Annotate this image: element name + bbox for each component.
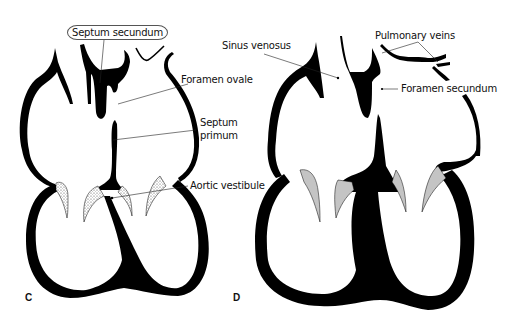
- label-aortic-vestibule: Aortic vestibule: [190, 180, 265, 191]
- panel-d-right-atrial-wall: [436, 94, 481, 172]
- panel-d-pulmonary-vein-lower: [432, 66, 450, 81]
- panel-letter-c: C: [25, 292, 32, 303]
- panel-d-septum-primum: [336, 114, 400, 192]
- panel-c-sinus-notch: [136, 46, 164, 60]
- panel-c-leader-septum-primum: [113, 130, 196, 140]
- panel-d-heart: [255, 36, 480, 310]
- label-septum-primum-line2: primum: [200, 130, 238, 141]
- panel-d-valve-right-outer: [422, 166, 446, 212]
- panel-d-sinus-venosus-dot: [337, 77, 339, 79]
- panel-c-valve-left-outer: [56, 182, 68, 218]
- panel-c-left-atrial-wall: [20, 48, 73, 188]
- panel-d-left-atrial-wall: [267, 42, 324, 178]
- label-septum-secundum: Septum secundum: [67, 25, 168, 40]
- label-foramen-secundum: Foramen secundum: [401, 83, 497, 94]
- panel-c-valve-right-inner: [118, 186, 132, 216]
- panel-c-septum-primum: [96, 120, 124, 190]
- panel-letter-d: D: [233, 292, 240, 303]
- label-septum-primum-line1: Septum: [200, 117, 238, 128]
- panel-c-right-atrial-wall: [164, 52, 199, 182]
- panel-d-pulmonary-vein-upper: [380, 44, 446, 62]
- panel-d-pulmonary-vein-tip: [436, 62, 450, 67]
- panel-c-ventricles: [26, 180, 209, 298]
- panel-c-valve-left-inner: [84, 186, 104, 222]
- panel-d-septum-secundum: [340, 36, 381, 118]
- panel-d-leader-pulmonary-veins-a: [382, 42, 418, 53]
- label-foramen-ovale: Foramen ovale: [181, 74, 253, 85]
- panel-c-septum-secundum: [80, 44, 130, 119]
- panel-d-valve-left-outer: [300, 170, 320, 222]
- panel-c-valve-right-outer: [146, 176, 166, 216]
- panel-c-leader-foramen-ovale: [118, 84, 188, 104]
- label-pulmonary-veins: Pulmonary veins: [375, 30, 455, 41]
- panel-c-aortic-vestibule-dot: [111, 197, 114, 200]
- label-sinus-venosus: Sinus venosus: [222, 40, 291, 51]
- panel-d-valve-left-inner: [335, 180, 354, 218]
- panel-d-foramen-secundum-dot: [381, 88, 383, 90]
